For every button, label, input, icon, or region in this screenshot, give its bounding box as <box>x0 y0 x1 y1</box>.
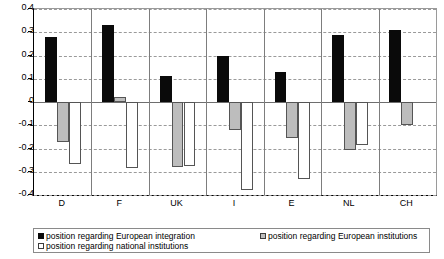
y-tick-mark <box>28 101 32 102</box>
gridline <box>34 32 436 33</box>
category-separator <box>321 9 322 195</box>
legend-item-0: position regarding European integration <box>38 231 260 241</box>
legend-swatch-gray-icon <box>260 233 266 239</box>
bar-NL-series2 <box>356 102 368 145</box>
x-tick-label-NL: NL <box>320 199 377 208</box>
bar-D-series2 <box>69 102 81 164</box>
category-separator <box>91 9 92 195</box>
y-tick-mark <box>28 31 32 32</box>
category-separator <box>149 9 150 195</box>
bar-UK-series1 <box>172 102 184 167</box>
x-tick-label-UK: UK <box>148 199 205 208</box>
category-separator <box>206 9 207 195</box>
bar-UK-series0 <box>160 76 172 102</box>
bar-E-series1 <box>286 102 298 138</box>
y-tick-mark <box>28 148 32 149</box>
bar-F-series0 <box>102 25 114 102</box>
bar-CH-series1 <box>401 102 413 125</box>
gridline <box>34 56 436 57</box>
legend-label-0: position regarding European integration <box>46 231 195 241</box>
bar-I-series0 <box>217 56 229 103</box>
legend-label-1: position regarding European institutions <box>268 231 417 241</box>
bar-CH-series0 <box>389 30 401 102</box>
y-tick-mark <box>28 8 32 9</box>
x-tick-label-E: E <box>263 199 320 208</box>
y-tick-mark <box>28 55 32 56</box>
x-tick-label-I: I <box>205 199 262 208</box>
legend-item-1: position regarding European institutions <box>260 231 417 241</box>
bar-D-series0 <box>45 37 57 102</box>
gridline <box>34 79 436 80</box>
plot-area <box>33 8 437 196</box>
bar-chart: 0.40.30.20.10-0.1-0.2-0.3-0.4 DFUKIENLCH… <box>0 0 444 259</box>
bar-F-series1 <box>114 97 126 102</box>
legend-swatch-white-icon <box>38 243 44 249</box>
bar-F-series2 <box>126 102 138 168</box>
chart-legend: position regarding European integration … <box>33 228 430 253</box>
bar-D-series1 <box>57 102 69 142</box>
legend-label-2: position regarding national institutions <box>46 241 188 251</box>
bar-NL-series0 <box>332 35 344 102</box>
category-separator <box>264 9 265 195</box>
bar-I-series1 <box>229 102 241 130</box>
gridline <box>34 9 436 10</box>
legend-item-2: position regarding national institutions <box>38 241 260 251</box>
bar-E-series0 <box>275 72 287 102</box>
legend-swatch-black-icon <box>38 233 44 239</box>
y-tick-mark <box>28 194 32 195</box>
x-tick-label-F: F <box>90 199 147 208</box>
bar-I-series2 <box>241 102 253 190</box>
category-separator <box>379 9 380 195</box>
x-tick-label-D: D <box>33 199 90 208</box>
y-tick-mark <box>28 124 32 125</box>
gridline <box>34 149 436 150</box>
x-tick-label-CH: CH <box>378 199 435 208</box>
y-tick-mark <box>28 171 32 172</box>
bar-E-series2 <box>298 102 310 179</box>
gridline <box>34 195 436 196</box>
y-tick-mark <box>28 78 32 79</box>
gridline <box>34 172 436 173</box>
bar-NL-series1 <box>344 102 356 150</box>
bar-UK-series2 <box>184 102 196 166</box>
